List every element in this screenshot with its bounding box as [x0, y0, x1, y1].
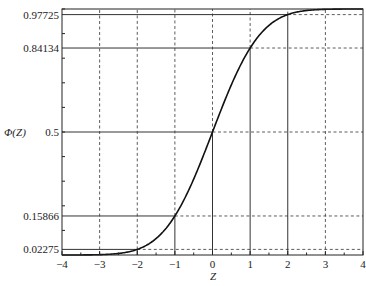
y-tick-label: 0.97725: [23, 9, 59, 21]
y-tick-label: 0.02275: [23, 243, 59, 255]
x-tick-label: 2: [285, 258, 291, 270]
normal-cdf-chart: −4−3−2−101234 0.022750.158660.50.841340.…: [0, 0, 366, 286]
y-axis-label: Φ(Z): [4, 126, 26, 139]
x-tick-label: −4: [56, 258, 68, 270]
y-tick-label: 0.15866: [23, 210, 59, 222]
x-tick-label: 0: [210, 258, 216, 270]
x-tick-label: 1: [247, 258, 253, 270]
x-tick-label: −1: [169, 258, 181, 270]
y-tick-label: 0.84134: [23, 42, 59, 54]
x-tick-label: 3: [323, 258, 329, 270]
x-tick-label: −3: [94, 258, 106, 270]
y-tick-label: 0.5: [45, 126, 59, 138]
x-axis-label: Z: [210, 270, 217, 282]
y-axis-ticks: 0.022750.158660.50.841340.97725: [23, 9, 65, 256]
x-tick-label: 4: [360, 258, 366, 270]
x-tick-label: −2: [131, 258, 143, 270]
